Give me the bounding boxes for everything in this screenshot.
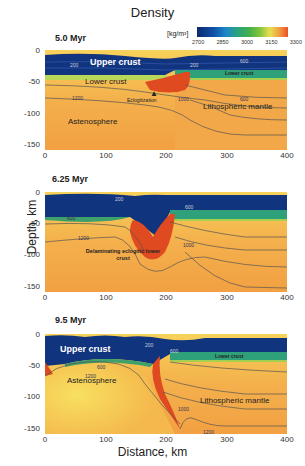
isotherm-label: 200 xyxy=(145,342,153,348)
label-upper-crust: Upper crust xyxy=(90,57,141,67)
panel-2-time: 6.25 Myr xyxy=(52,174,88,184)
isotherm-label: 600 xyxy=(97,364,105,370)
colorbar-tick: 3300 xyxy=(290,39,302,45)
x-tick: 0 xyxy=(33,151,57,160)
y-tick: 0 xyxy=(18,46,40,55)
x-tick: 200 xyxy=(154,435,178,444)
x-tick: 400 xyxy=(275,293,299,302)
y-tick: -150 xyxy=(18,140,40,149)
isotherm-label: 1000 xyxy=(178,406,189,412)
colorbar-ticks: 2700 2850 3000 3150 3300 xyxy=(192,39,302,45)
x-tick: 0 xyxy=(33,293,57,302)
colorbar-unit: [kg/m³] xyxy=(167,30,188,37)
panel-1-plot: Upper crust Lower crust Lower crust Eclo… xyxy=(45,50,287,150)
panel-2-plot: 600 200 600 1000 1200 Delaminating eclog… xyxy=(45,192,287,292)
isotherm-label: 600 xyxy=(240,58,248,64)
label-delaminating: Delaminating eclogitic lower crust xyxy=(83,248,163,261)
x-tick: 300 xyxy=(215,151,239,160)
x-tick: 100 xyxy=(94,293,118,302)
colorbar-tick: 2700 xyxy=(192,39,204,45)
y-tick: -50 xyxy=(18,77,40,86)
y-tick: -50 xyxy=(18,219,40,228)
isotherm-label: 1200 xyxy=(85,373,96,379)
label-lithospheric-mantle: Lithospheric mantle xyxy=(200,396,269,405)
figure-title: Density xyxy=(0,5,305,20)
density-colorbar xyxy=(197,27,288,37)
panel-1-time: 5.0 Myr xyxy=(55,33,86,43)
label-lithospheric-mantle: Lithospheric mantle xyxy=(203,102,272,111)
isotherm-label: 200 xyxy=(70,62,78,68)
y-tick: -100 xyxy=(18,109,40,118)
x-tick: 300 xyxy=(215,435,239,444)
label-lower-crust-right: Lower crust xyxy=(215,353,243,359)
isotherm-label: 1200 xyxy=(203,429,214,435)
isotherm-label: 200 xyxy=(115,196,123,202)
x-tick: 400 xyxy=(275,151,299,160)
x-tick: 100 xyxy=(94,151,118,160)
isotherm-label: 600 xyxy=(67,215,75,221)
panel-3-plot: Upper crust Lower crust Astenosphere Lit… xyxy=(45,334,287,434)
panel-3-time: 9.5 Myr xyxy=(55,315,86,325)
colorbar-tick: 3150 xyxy=(265,39,277,45)
y-tick: -150 xyxy=(18,282,40,291)
x-axis-label: Distance, km xyxy=(0,445,305,459)
isotherm-label: 200 xyxy=(190,62,198,68)
label-lower-crust-right: Lower crust xyxy=(225,70,253,76)
label-upper-crust: Upper crust xyxy=(60,344,111,354)
arrow-icon: ▲ xyxy=(150,89,158,98)
isotherm-label: 1000 xyxy=(178,96,189,102)
label-asthenosphere: Astenosphere xyxy=(68,117,117,126)
x-tick: 0 xyxy=(33,435,57,444)
y-tick: 0 xyxy=(18,188,40,197)
x-tick: 100 xyxy=(94,435,118,444)
y-tick: -100 xyxy=(18,250,40,259)
colorbar-tick: 3000 xyxy=(241,39,253,45)
isotherm-label: 600 xyxy=(170,348,178,354)
x-tick: 300 xyxy=(215,293,239,302)
label-lower-crust-left: Lower crust xyxy=(85,77,126,86)
y-tick: 0 xyxy=(18,330,40,339)
isotherm-label: 1000 xyxy=(183,242,194,248)
x-tick: 200 xyxy=(154,151,178,160)
y-tick: -100 xyxy=(18,392,40,401)
colorbar-tick: 2850 xyxy=(216,39,228,45)
isotherm-label: 1200 xyxy=(78,235,89,241)
isotherm-label: 600 xyxy=(185,204,193,210)
y-tick: -150 xyxy=(18,424,40,433)
isotherm-label: 1200 xyxy=(72,95,83,101)
y-tick: -50 xyxy=(18,361,40,370)
x-tick: 400 xyxy=(275,435,299,444)
x-tick: 200 xyxy=(154,293,178,302)
isotherm-label: 600 xyxy=(240,96,248,102)
